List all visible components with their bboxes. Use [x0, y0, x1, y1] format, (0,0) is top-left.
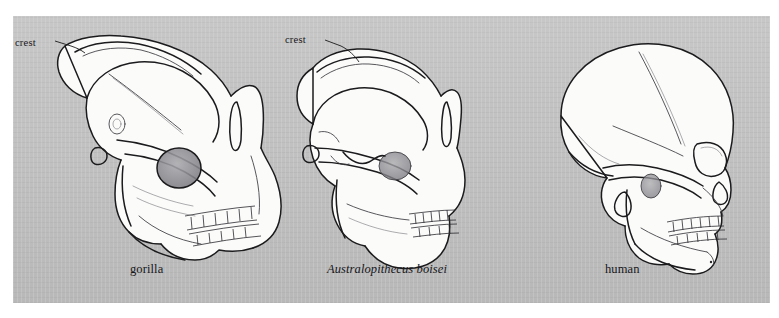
specimen-label-australopithecus-boisei: Australopithecus boisei [327, 263, 447, 276]
annotation-crest-australopithecus: crest [285, 35, 306, 46]
illustration-plate [13, 16, 770, 303]
figure-root: crest crest gorilla Australopithecus boi… [0, 0, 779, 318]
skull-gorilla [58, 35, 281, 260]
skull-human [561, 44, 734, 274]
annotation-crest-gorilla: crest [15, 38, 36, 49]
specimen-label-gorilla: gorilla [130, 263, 163, 276]
skull-illustrations [13, 16, 770, 303]
specimen-label-human: human [605, 263, 640, 276]
skull-australopithecus-boisei [297, 49, 465, 269]
